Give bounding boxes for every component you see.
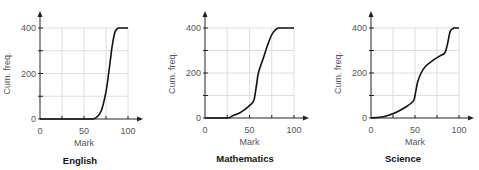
grid bbox=[371, 28, 459, 118]
y-tick-label: 400 bbox=[21, 23, 36, 33]
x-tick-label: 50 bbox=[244, 125, 254, 135]
english-chart: 0501000200400MarkCum. freq. bbox=[0, 0, 160, 170]
science-chart-panel: 0501000200400MarkCum. freq. Science bbox=[331, 0, 479, 170]
y-axis-label: Cum. freq. bbox=[167, 52, 177, 94]
x-axis-arrow-icon bbox=[303, 116, 309, 121]
x-axis-arrow-icon bbox=[137, 117, 143, 122]
x-tick-label: 100 bbox=[120, 126, 135, 136]
y-tick-label: 400 bbox=[352, 23, 367, 33]
chart-title-mathematics: Mathematics bbox=[165, 153, 325, 164]
x-axis-label: Mark bbox=[240, 137, 260, 147]
y-tick-label: 0 bbox=[196, 113, 201, 123]
chart-title-science: Science bbox=[323, 153, 479, 164]
x-axis-label: Mark bbox=[74, 138, 94, 148]
x-tick-label: 50 bbox=[79, 126, 89, 136]
x-tick-label: 0 bbox=[37, 126, 42, 136]
x-tick-label: 50 bbox=[410, 125, 420, 135]
y-tick-label: 200 bbox=[352, 68, 367, 78]
chart-title-english: English bbox=[0, 155, 160, 166]
y-tick-label: 200 bbox=[186, 68, 201, 78]
y-tick-label: 200 bbox=[21, 69, 36, 79]
y-axis-arrow-icon bbox=[369, 11, 374, 17]
grid bbox=[205, 28, 294, 118]
grid bbox=[40, 28, 128, 119]
x-tick-label: 100 bbox=[451, 125, 466, 135]
mathematics-chart: 0501000200400MarkCum. freq. bbox=[165, 0, 325, 170]
x-tick-label: 0 bbox=[202, 125, 207, 135]
y-tick-label: 0 bbox=[31, 114, 36, 124]
y-axis-label: Cum. freq. bbox=[2, 52, 12, 94]
y-tick-label: 0 bbox=[362, 113, 367, 123]
y-tick-label: 400 bbox=[186, 23, 201, 33]
y-axis-arrow-icon bbox=[38, 11, 43, 17]
mathematics-chart-panel: 0501000200400MarkCum. freq. Mathematics bbox=[165, 0, 325, 170]
x-axis-arrow-icon bbox=[468, 116, 474, 121]
science-chart: 0501000200400MarkCum. freq. bbox=[331, 0, 479, 170]
x-axis-label: Mark bbox=[405, 137, 425, 147]
x-tick-label: 0 bbox=[368, 125, 373, 135]
english-chart-panel: 0501000200400MarkCum. freq. English bbox=[0, 0, 160, 170]
x-tick-label: 100 bbox=[286, 125, 301, 135]
y-axis-arrow-icon bbox=[203, 11, 208, 17]
y-axis-label: Cum. freq. bbox=[333, 52, 343, 94]
